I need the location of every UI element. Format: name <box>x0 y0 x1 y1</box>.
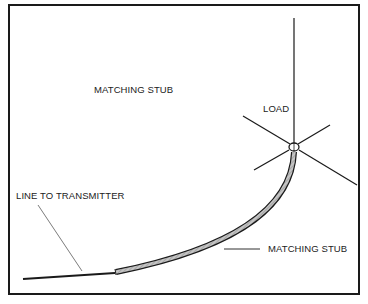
transmitter-line <box>23 273 115 279</box>
matching-stub-cable <box>116 152 294 272</box>
radial-upper-left <box>243 116 290 144</box>
radial-lower-left <box>254 150 289 170</box>
radial-upper-right <box>298 125 330 144</box>
antenna-diagram <box>0 0 368 304</box>
line-to-transmitter-label: LINE TO TRANSMITTER <box>16 190 125 201</box>
diagram-title: MATCHING STUB <box>94 84 173 95</box>
load-label: LOAD <box>263 103 289 114</box>
transmitter-leader <box>38 205 82 271</box>
matching-stub-label: MATCHING STUB <box>268 243 347 254</box>
radial-lower-right <box>299 150 357 185</box>
